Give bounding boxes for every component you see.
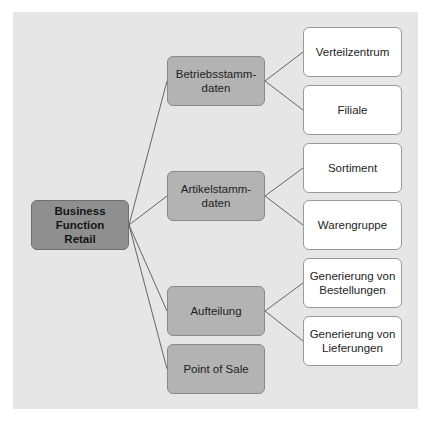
node-label-line1: Betriebsstamm- [176,68,257,80]
connector-artikel-warengruppe [265,196,303,225]
leaf-label: Warengruppe [318,218,387,232]
node-artikelstammdaten: Artikelstamm- daten [167,171,265,221]
leaf-generierung-lieferungen: Generierung von Lieferungen [303,316,402,366]
leaf-label-line1: Generierung von [310,270,396,282]
leaf-label-line1: Generierung von [310,328,396,340]
leaf-filiale: Filiale [303,85,402,135]
node-label-line1: Artikelstamm- [181,183,251,195]
connector-artikel-sortiment [265,168,303,196]
connector-root-artikelstammdaten [129,196,167,225]
node-label-line2: daten [202,82,231,94]
root-node-business-function-retail: Business Function Retail [31,200,129,250]
node-label: Point of Sale [183,362,248,376]
node-label-line2: daten [202,197,231,209]
leaf-label: Verteilzentrum [316,45,390,59]
leaf-generierung-bestellungen: Generierung von Bestellungen [303,258,402,308]
connector-aufteilung-bestellungen [265,283,303,311]
node-point-of-sale: Point of Sale [167,344,265,394]
root-label-line2: Retail [64,233,95,245]
leaf-label: Filiale [337,103,367,117]
leaf-warengruppe: Warengruppe [303,200,402,250]
leaf-label-line2: Lieferungen [322,342,383,354]
connector-root-betriebsstammdaten [129,81,167,225]
connector-betrieb-verteilzentrum [265,52,303,81]
leaf-sortiment: Sortiment [303,143,402,193]
leaf-verteilzentrum: Verteilzentrum [303,27,402,77]
node-aufteilung: Aufteilung [167,286,265,336]
node-betriebsstammdaten: Betriebsstamm- daten [167,56,265,106]
leaf-label-line2: Bestellungen [319,284,386,296]
root-label-line1: Business Function [54,205,105,231]
leaf-label: Sortiment [328,161,377,175]
connector-aufteilung-lieferungen [265,311,303,341]
node-label: Aufteilung [190,304,241,318]
connector-betrieb-filiale [265,81,303,110]
